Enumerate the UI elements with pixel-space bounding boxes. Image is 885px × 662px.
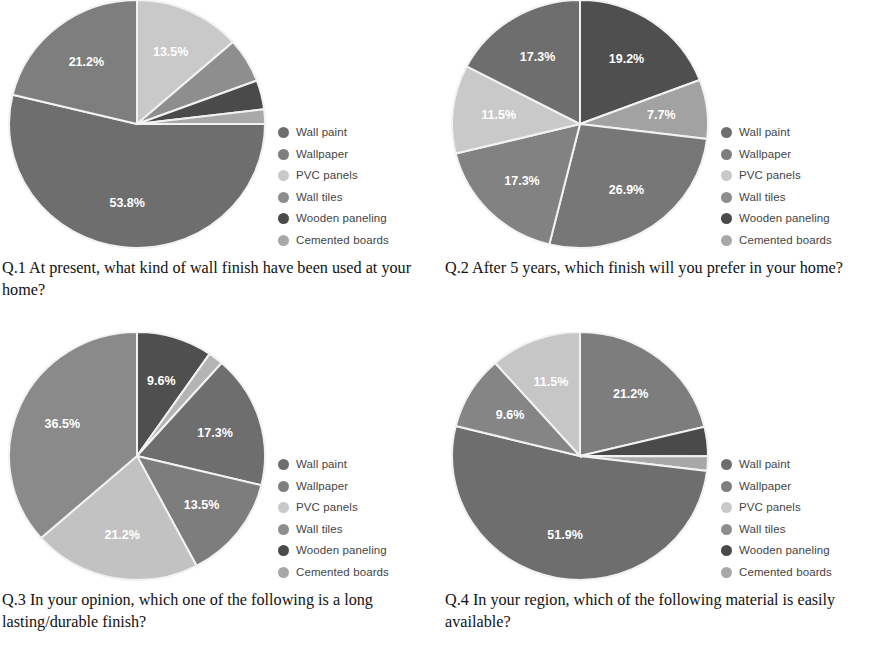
legend-item-pvc-panels[interactable]: PVC panels [721,165,881,187]
legend-item-wallpaper[interactable]: Wallpaper [278,476,438,498]
legend-item-pvc-panels[interactable]: PVC panels [721,497,881,519]
legend-swatch-icon [278,459,289,470]
chart-area-q2: 19.2%7.7%26.9%17.3%11.5%17.3% Wall paint… [443,0,885,262]
legend-swatch-icon [721,567,732,578]
legend-swatch-icon [721,170,732,181]
legend-item-label: PVC panels [296,497,358,519]
legend-q3: Wall paintWallpaperPVC panelsWall tilesW… [278,454,438,583]
legend-item-wall-paint[interactable]: Wall paint [721,122,881,144]
legend-item-label: Wallpaper [739,144,791,166]
legend-swatch-icon [278,524,289,535]
legend-item-label: Wallpaper [739,476,791,498]
legend-item-label: Wall paint [739,122,790,144]
legend-swatch-icon [721,149,732,160]
legend-swatch-icon [721,524,732,535]
legend-item-label: Cemented boards [739,230,832,252]
pie-slices-q3 [9,332,265,580]
legend-item-label: Cemented boards [739,562,832,584]
pie-chart-figure-grid: 13.5%53.8%21.2% Wall paintWallpaperPVC p… [0,0,885,662]
legend-item-label: Wallpaper [296,476,348,498]
legend-swatch-icon [278,235,289,246]
legend-item-pvc-panels[interactable]: PVC panels [278,165,438,187]
pie-wrap-q1: 13.5%53.8%21.2% [6,0,274,258]
pie-slice-value-label: 11.5% [534,375,569,389]
legend-item-wooden-paneling[interactable]: Wooden paneling [721,208,881,230]
legend-item-label: Wall tiles [739,519,786,541]
pie-slice-value-label: 26.9% [609,183,644,197]
pie-slice-value-label: 51.9% [547,528,582,542]
pie-slice-value-label: 9.6% [147,374,176,388]
pie-slices-q1 [9,0,265,248]
legend-swatch-icon [721,213,732,224]
pie-slice-value-label: 11.5% [481,108,516,122]
pie-wrap-q3: 9.6%17.3%13.5%21.2%36.5% [6,332,274,590]
chart-area-q3: 9.6%17.3%13.5%21.2%36.5% Wall paintWallp… [0,332,442,594]
legend-item-wall-tiles[interactable]: Wall tiles [278,187,438,209]
legend-item-label: PVC panels [739,165,801,187]
caption-q4: Q.4 In your region, which of the followi… [445,590,883,633]
pie-slice-value-label: 13.5% [153,45,188,59]
legend-item-label: Wall paint [739,454,790,476]
legend-q1: Wall paintWallpaperPVC panelsWall tilesW… [278,122,438,251]
legend-q4: Wall paintWallpaperPVC panelsWall tilesW… [721,454,881,583]
legend-swatch-icon [278,502,289,513]
pie-slices-q2 [452,0,708,248]
legend-item-label: Wooden paneling [739,540,830,562]
pie-slice-value-label: 7.7% [647,108,676,122]
caption-q3: Q.3 In your opinion, which one of the fo… [2,590,440,633]
legend-item-wallpaper[interactable]: Wallpaper [278,144,438,166]
legend-item-label: Wall tiles [296,519,343,541]
legend-item-cemented-boards[interactable]: Cemented boards [721,562,881,584]
legend-swatch-icon [721,235,732,246]
legend-swatch-icon [278,149,289,160]
pie-slice-value-label: 13.5% [184,498,219,512]
legend-item-wall-tiles[interactable]: Wall tiles [721,519,881,541]
pie-slice-value-label: 17.3% [504,174,539,188]
legend-item-wall-paint[interactable]: Wall paint [278,122,438,144]
legend-item-wallpaper[interactable]: Wallpaper [721,476,881,498]
legend-item-label: Cemented boards [296,230,389,252]
chart-panel-q2: 19.2%7.7%26.9%17.3%11.5%17.3% Wall paint… [443,0,885,331]
legend-item-label: Wooden paneling [296,540,387,562]
legend-item-wooden-paneling[interactable]: Wooden paneling [278,208,438,230]
chart-area-q1: 13.5%53.8%21.2% Wall paintWallpaperPVC p… [0,0,442,262]
legend-item-cemented-boards[interactable]: Cemented boards [278,562,438,584]
legend-item-pvc-panels[interactable]: PVC panels [278,497,438,519]
pie-chart-q1: 13.5%53.8%21.2% [6,0,274,258]
legend-swatch-icon [721,192,732,203]
chart-area-q4: 21.2%51.9%9.6%11.5% Wall paintWallpaperP… [443,332,885,594]
legend-q2: Wall paintWallpaperPVC panelsWall tilesW… [721,122,881,251]
legend-item-label: Wall paint [296,122,347,144]
legend-swatch-icon [278,567,289,578]
pie-slice-value-label: 17.3% [197,426,232,440]
caption-q1: Q.1 At present, what kind of wall finish… [2,258,440,301]
pie-chart-q3: 9.6%17.3%13.5%21.2%36.5% [6,332,274,590]
legend-item-cemented-boards[interactable]: Cemented boards [278,230,438,252]
legend-item-wooden-paneling[interactable]: Wooden paneling [278,540,438,562]
pie-slice-value-label: 21.2% [104,528,139,542]
legend-item-wallpaper[interactable]: Wallpaper [721,144,881,166]
caption-q2: Q.2 After 5 years, which finish will you… [445,258,883,280]
legend-swatch-icon [278,481,289,492]
legend-swatch-icon [278,213,289,224]
legend-item-label: Cemented boards [296,562,389,584]
legend-item-label: PVC panels [739,497,801,519]
legend-item-label: Wall tiles [739,187,786,209]
pie-slice-value-label: 21.2% [69,55,104,69]
legend-item-wall-paint[interactable]: Wall paint [721,454,881,476]
pie-wrap-q4: 21.2%51.9%9.6%11.5% [449,332,717,590]
pie-slice-value-label: 53.8% [109,196,144,210]
pie-slice-value-label: 21.2% [613,387,648,401]
legend-item-label: Wall paint [296,454,347,476]
legend-swatch-icon [278,192,289,203]
legend-item-wall-tiles[interactable]: Wall tiles [721,187,881,209]
legend-item-cemented-boards[interactable]: Cemented boards [721,230,881,252]
legend-item-wooden-paneling[interactable]: Wooden paneling [721,540,881,562]
pie-slice-value-label: 36.5% [45,417,80,431]
legend-item-label: Wooden paneling [296,208,387,230]
chart-panel-q3: 9.6%17.3%13.5%21.2%36.5% Wall paintWallp… [0,332,442,662]
legend-item-label: Wallpaper [296,144,348,166]
legend-item-wall-tiles[interactable]: Wall tiles [278,519,438,541]
pie-chart-q4: 21.2%51.9%9.6%11.5% [449,332,717,590]
legend-item-wall-paint[interactable]: Wall paint [278,454,438,476]
